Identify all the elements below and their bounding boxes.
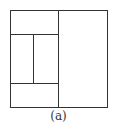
- outer-left-edge: [10, 10, 11, 108]
- outer-top-edge: [10, 10, 108, 11]
- lower-horizontal-divider: [10, 83, 59, 84]
- upper-horizontal-divider: [10, 34, 59, 35]
- outer-bottom-edge: [10, 107, 108, 108]
- outer-right-edge: [107, 10, 108, 108]
- figure-caption: (a): [0, 109, 117, 123]
- inner-vertical-divider: [33, 34, 34, 84]
- main-vertical-divider: [58, 10, 59, 108]
